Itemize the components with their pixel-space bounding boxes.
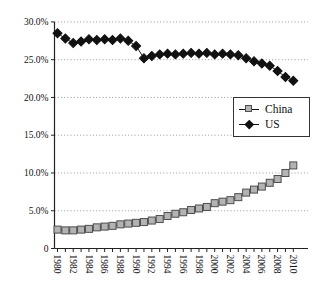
x-tick-label: 1994 [162,255,172,274]
y-tick-label: 30.0% [24,17,49,27]
y-tick-label: 0 [44,244,49,254]
china-data-point [54,226,61,233]
us-data-point [116,34,125,43]
us-data-point [124,36,133,45]
us-data-point [84,35,93,44]
y-tick-label: 20.0% [24,93,49,103]
series-us [53,29,298,86]
china-data-point [156,216,163,223]
us-data-point [226,50,235,59]
us-data-point [147,51,156,60]
diamond-marker-icon [244,120,253,129]
x-tick-label: 2002 [225,255,235,274]
us-data-point [210,50,219,59]
us-data-point [202,48,211,57]
x-tick-label: 1984 [84,255,94,274]
china-data-point [148,217,155,224]
x-tick-label: 1990 [131,255,141,274]
china-data-point [78,226,85,233]
china-data-point [109,222,116,229]
china-data-point [180,209,187,216]
chart: 30.0%25.0%20.0%15.0%10.0%5.0%01980198219… [0,0,318,296]
china-data-point [274,176,281,183]
x-tick-label: 1982 [68,255,78,274]
china-data-point [266,179,273,186]
china-data-point [258,183,265,190]
china-data-point [243,189,250,196]
china-data-point [195,205,202,212]
us-data-point [265,61,274,70]
us-data-point [257,59,266,68]
us-data-point [155,50,164,59]
x-tick-label: 2004 [241,255,251,274]
us-data-point [273,66,282,75]
us-data-point [61,34,70,43]
china-data-point [188,206,195,213]
x-tick-label: 1986 [99,255,109,274]
us-data-point [163,49,172,58]
legend-item-china: China [239,104,304,116]
china-data-point [93,224,100,231]
china-data-point [282,169,289,176]
china-data-point [140,219,147,226]
x-axis-labels: 1980198219841986198819901992199419961998… [52,255,298,274]
us-diamond-marker-icon [239,120,259,130]
china-data-point [117,221,124,228]
us-data-point [171,50,180,59]
china-data-point [172,210,179,217]
china-data-point [227,197,234,204]
china-data-point [70,227,77,234]
us-data-point [281,73,290,82]
china-square-marker-icon [239,104,259,114]
china-data-point [125,220,132,227]
x-tick-label: 2000 [209,255,219,274]
square-marker-icon [245,105,252,112]
us-data-point [108,36,117,45]
x-tick-label: 1996 [178,255,188,274]
x-tick-label: 1980 [52,255,62,274]
legend: China US [233,97,310,137]
y-axis-labels: 30.0%25.0%20.0%15.0%10.0%5.0%0 [24,17,49,254]
china-data-point [164,213,171,220]
us-data-point [132,42,141,51]
x-tick-label: 2008 [272,255,282,274]
us-data-point [77,37,86,46]
x-tick-label: 1998 [194,255,204,274]
x-tick-label: 2010 [288,255,298,274]
legend-label-china: China [265,104,292,116]
x-tick-label: 1992 [146,255,156,274]
china-data-point [133,219,140,226]
x-tick-label: 1988 [115,255,125,274]
china-data-point [211,200,218,207]
us-data-point [139,54,148,63]
china-data-point [235,194,242,201]
legend-label-us: US [265,119,280,131]
us-data-point [218,49,227,58]
china-data-point [219,198,226,205]
y-tick-label: 10.0% [24,168,49,178]
us-data-point [92,36,101,45]
y-tick-label: 5.0% [29,206,49,216]
us-data-point [187,48,196,57]
x-tick-label: 2006 [256,255,266,274]
china-data-point [251,186,258,193]
us-data-point [69,39,78,48]
legend-item-us: US [239,119,304,131]
china-data-point [62,227,69,234]
plot-canvas: 30.0%25.0%20.0%15.0%10.0%5.0%01980198219… [0,0,318,296]
y-tick-label: 25.0% [24,55,49,65]
y-tick-label: 15.0% [24,130,49,140]
us-data-point [100,35,109,44]
china-data-point [101,223,108,230]
china-data-point [85,225,92,232]
us-data-point [179,49,188,58]
us-data-point [194,49,203,58]
china-data-point [290,162,297,169]
china-data-point [203,203,210,210]
us-data-point [289,76,298,85]
